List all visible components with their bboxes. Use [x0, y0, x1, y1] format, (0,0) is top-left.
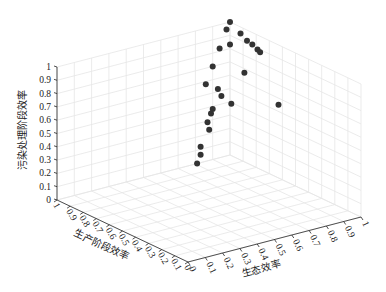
- scatter3d-chart: 00.10.20.30.40.50.60.70.80.9100.10.20.30…: [0, 0, 386, 292]
- data-point: [228, 101, 234, 107]
- x-tick: [275, 240, 277, 243]
- y-tick: [80, 212, 83, 214]
- data-point: [205, 119, 211, 125]
- data-point: [198, 152, 204, 158]
- z-tick: [54, 172, 57, 173]
- z-tick-label: 0.1: [39, 182, 51, 192]
- z-tick-label: 0.8: [39, 89, 51, 99]
- x-tick-label: 0.4: [256, 247, 270, 262]
- y-tick: [159, 250, 162, 252]
- x-tick: [344, 222, 346, 225]
- x-tick: [257, 244, 259, 247]
- x-tick: [240, 249, 242, 252]
- y-tick: [67, 206, 70, 208]
- z-tick: [54, 133, 57, 134]
- x-tick-label: 0.3: [239, 251, 253, 266]
- data-point: [276, 102, 282, 108]
- z-tick: [54, 106, 57, 107]
- z-tick: [54, 146, 57, 147]
- data-point: [244, 38, 250, 44]
- z-tick-label: 0: [46, 195, 51, 205]
- y-tick: [146, 243, 149, 245]
- data-point: [215, 86, 221, 92]
- z-tick: [54, 186, 57, 187]
- z-tick-label: 0.7: [39, 102, 51, 112]
- x-tick: [326, 226, 328, 229]
- y-tick: [185, 262, 188, 264]
- data-point: [217, 46, 223, 52]
- z-tick-label: 0.6: [39, 115, 51, 125]
- z-tick: [54, 119, 57, 120]
- y-tick-label: 1: [51, 201, 62, 210]
- y-tick: [106, 225, 109, 227]
- data-point: [198, 144, 204, 150]
- data-point: [208, 110, 214, 116]
- x-tick: [292, 235, 294, 238]
- x-tick: [361, 217, 363, 220]
- data-point: [206, 127, 212, 133]
- y-tick: [172, 256, 175, 258]
- x-tick-label: 0.2: [222, 256, 236, 271]
- data-point: [241, 70, 247, 76]
- data-point: [194, 161, 200, 167]
- data-point: [224, 27, 230, 33]
- data-point: [203, 81, 209, 87]
- data-point: [227, 19, 233, 25]
- x-tick-label: 0.7: [308, 233, 322, 248]
- y-tick: [54, 200, 57, 202]
- z-tick-label: 0.9: [39, 75, 51, 85]
- z-axis-title: 污染处理阶段效率: [16, 90, 28, 170]
- y-tick: [120, 231, 123, 233]
- x-tick: [223, 253, 225, 256]
- z-tick: [54, 66, 57, 67]
- x-tick-label: 0.1: [204, 260, 218, 275]
- data-point: [210, 63, 216, 69]
- z-tick-label: 1: [46, 62, 51, 72]
- x-tick-label: 1: [360, 220, 371, 229]
- y-tick: [133, 237, 136, 239]
- z-tick-label: 0.5: [39, 129, 51, 139]
- z-tick: [54, 199, 57, 200]
- data-point: [218, 93, 224, 99]
- z-tick-label: 0.3: [39, 155, 51, 165]
- y-tick: [93, 219, 96, 221]
- data-point: [227, 42, 233, 48]
- x-tick-label: 0.5: [274, 242, 288, 257]
- x-tick-label: 0.8: [326, 229, 340, 244]
- x-tick: [205, 258, 207, 261]
- z-tick: [54, 93, 57, 94]
- z-tick-label: 0.2: [39, 168, 51, 178]
- x-tick: [309, 231, 311, 234]
- x-tick-label: 0.6: [291, 238, 305, 253]
- z-tick: [54, 159, 57, 160]
- z-tick-label: 0.4: [39, 142, 51, 152]
- data-point: [257, 49, 263, 55]
- x-tick-label: 0.9: [343, 224, 357, 239]
- data-point: [238, 31, 244, 37]
- data-point: [249, 42, 255, 48]
- z-tick: [54, 79, 57, 80]
